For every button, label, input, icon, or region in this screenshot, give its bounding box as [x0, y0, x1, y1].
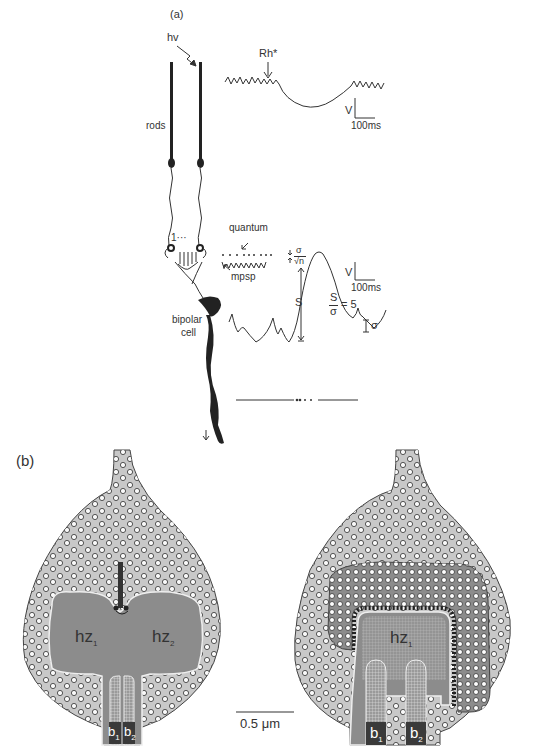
right-hz1-label: hz1: [390, 628, 412, 649]
left-hz1-label: hz1: [75, 627, 97, 648]
right-rod-terminal: [295, 450, 511, 745]
left-rod-terminal: [23, 450, 220, 745]
left-b1-label: b1: [108, 724, 120, 742]
scale-bar-label: 0.5 μm: [240, 716, 280, 731]
left-b2-label: b2: [124, 724, 136, 742]
right-b2-label: b2: [410, 724, 423, 744]
left-hz2-label: hz2: [152, 627, 174, 648]
right-b1-label: b1: [370, 724, 383, 744]
